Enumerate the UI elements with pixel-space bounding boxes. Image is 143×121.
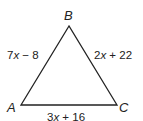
triangle-abc — [21, 26, 117, 105]
side-bc-op: + — [106, 49, 119, 61]
side-label-ab: 7x − 8 — [7, 49, 39, 61]
side-bc-const: 22 — [119, 49, 132, 61]
side-ac-const: 16 — [72, 111, 85, 121]
vertex-label-b: B — [64, 8, 73, 23]
side-label-bc: 2x + 22 — [94, 49, 132, 61]
side-ac-op: + — [59, 111, 72, 121]
side-ab-const: 8 — [32, 49, 38, 61]
triangle-diagram: B A C 7x − 8 2x + 22 3x + 16 — [0, 0, 143, 121]
vertex-label-c: C — [119, 100, 129, 115]
side-ab-op: − — [19, 49, 32, 61]
vertex-label-a: A — [6, 100, 16, 115]
side-label-ac: 3x + 16 — [47, 111, 85, 121]
